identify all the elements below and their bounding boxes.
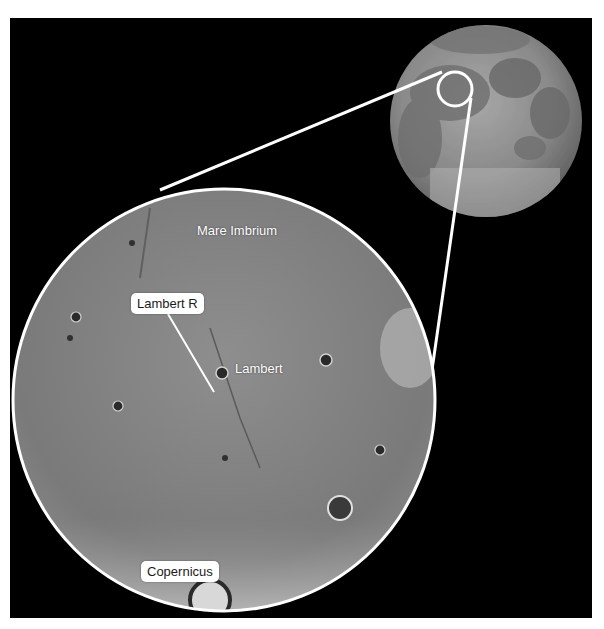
label-lambert-r: Lambert R bbox=[131, 293, 204, 314]
full-moon bbox=[390, 25, 582, 228]
moon-illustration bbox=[10, 18, 592, 618]
label-copernicus: Copernicus bbox=[141, 561, 219, 582]
label-mare-imbrium: Mare Imbrium bbox=[197, 223, 277, 238]
label-lambert: Lambert bbox=[235, 361, 283, 376]
image-panel: Mare Imbrium Lambert R Lambert Copernicu… bbox=[10, 18, 592, 618]
magnified-region bbox=[10, 189, 440, 618]
